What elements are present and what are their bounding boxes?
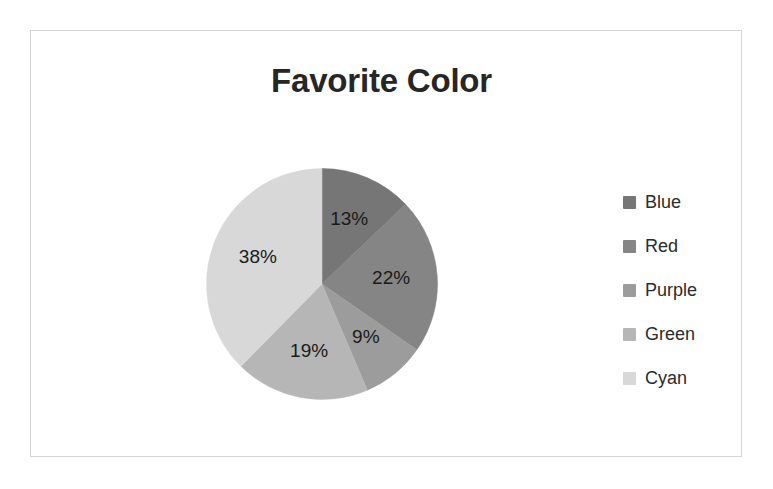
legend-swatch-icon (623, 196, 636, 209)
legend-swatch-icon (623, 284, 636, 297)
legend-item-label: Red (645, 237, 678, 255)
legend-item-label: Cyan (645, 369, 687, 387)
pie-slice-label: 38% (239, 246, 277, 267)
legend-item-label: Purple (645, 281, 697, 299)
legend-item-cyan[interactable]: Cyan (623, 356, 733, 400)
legend-item-purple[interactable]: Purple (623, 268, 733, 312)
legend-swatch-icon (623, 372, 636, 385)
legend-item-label: Blue (645, 193, 681, 211)
legend-item-label: Green (645, 325, 695, 343)
chart-legend: BlueRedPurpleGreenCyan (623, 180, 733, 400)
pie-slice-label: 22% (372, 267, 410, 288)
legend-swatch-icon (623, 328, 636, 341)
chart-canvas: Favorite Color 13%22%9%19%38% BlueRedPur… (0, 0, 773, 489)
pie-chart: 13%22%9%19%38% (206, 168, 438, 400)
pie-slice-label: 13% (330, 208, 368, 229)
legend-swatch-icon (623, 240, 636, 253)
legend-item-blue[interactable]: Blue (623, 180, 733, 224)
pie-slice-label: 19% (290, 340, 328, 361)
pie-svg: 13%22%9%19%38% (206, 168, 438, 400)
pie-slice-label: 9% (352, 326, 380, 347)
legend-item-red[interactable]: Red (623, 224, 733, 268)
legend-item-green[interactable]: Green (623, 312, 733, 356)
chart-title: Favorite Color (0, 62, 773, 100)
chart-title-text: Favorite Color (271, 62, 492, 100)
